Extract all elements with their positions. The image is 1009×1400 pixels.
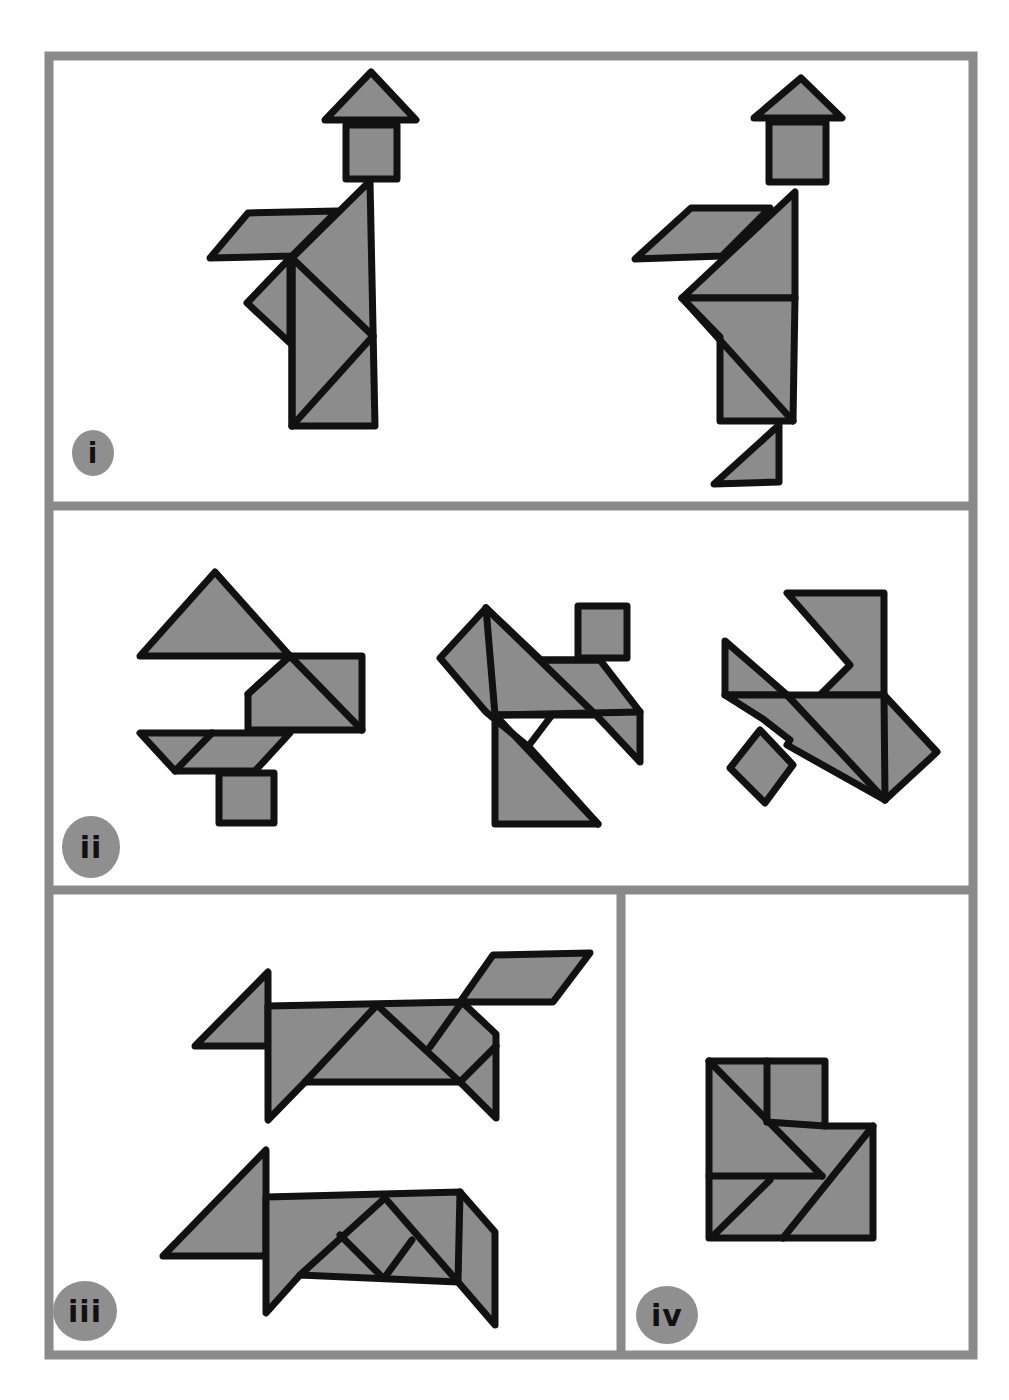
panel-iii-figure-1: [195, 953, 590, 1120]
panel-label-iv: iv: [636, 1286, 698, 1344]
panel-i-figure-2: [635, 78, 842, 484]
panel-i-figure-1: [210, 72, 416, 426]
panel-label-ii: ii: [62, 816, 120, 878]
tangram-diagram: [0, 0, 1009, 1400]
panel-ii-figure-1: [140, 572, 362, 823]
panel-iv-figure: [709, 1061, 873, 1238]
panel-ii-figure-2: [440, 606, 640, 824]
panel-label-i: i: [72, 430, 114, 476]
panel-label-iii: iii: [53, 1281, 117, 1341]
panel-iii-figure-2: [163, 1150, 495, 1325]
panel-ii-figure-3: [725, 593, 937, 803]
